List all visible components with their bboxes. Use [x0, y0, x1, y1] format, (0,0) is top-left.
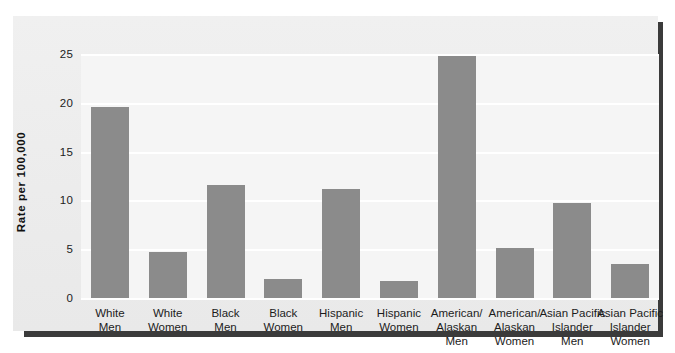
chart-figure: Rate per 100,000 0510152025 White MenWhi… — [0, 0, 675, 353]
bar — [264, 279, 302, 299]
bar — [91, 107, 129, 299]
x-axis-baseline — [81, 298, 659, 300]
y-tick-label: 15 — [33, 146, 73, 158]
y-axis-title: Rate per 100,000 — [15, 122, 27, 242]
y-tick-label: 5 — [33, 243, 73, 255]
bar — [553, 203, 591, 299]
gridline — [81, 200, 659, 202]
y-tick-label: 10 — [33, 194, 73, 206]
bar — [496, 248, 534, 299]
x-tick-label: Asian Pacific Islander Women — [585, 306, 675, 348]
bar — [611, 264, 649, 299]
y-tick-label: 20 — [33, 97, 73, 109]
bar — [438, 56, 476, 299]
bar — [322, 189, 360, 299]
y-tick-label: 25 — [33, 48, 73, 60]
bar — [380, 281, 418, 299]
y-tick-label: 0 — [33, 292, 73, 304]
gridline — [81, 152, 659, 154]
chart-panel: Rate per 100,000 0510152025 White MenWhi… — [13, 16, 658, 331]
plot-area — [81, 55, 659, 299]
gridline — [81, 54, 659, 56]
bar — [207, 185, 245, 299]
bar — [149, 252, 187, 299]
gridline — [81, 103, 659, 105]
